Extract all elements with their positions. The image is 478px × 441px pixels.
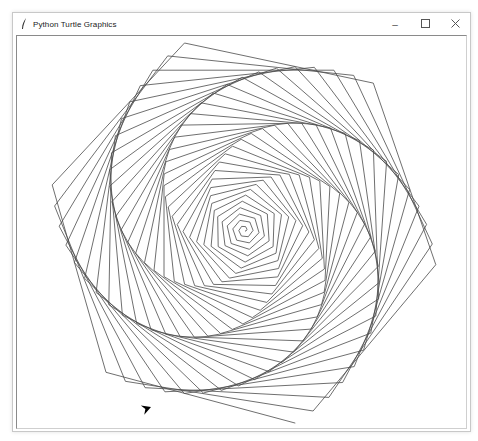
window-title: Python Turtle Graphics xyxy=(33,20,117,29)
hexagon-spiral-path xyxy=(52,43,436,423)
title-bar[interactable]: Python Turtle Graphics – xyxy=(13,13,470,35)
minimize-button[interactable]: – xyxy=(380,13,410,35)
close-icon xyxy=(451,19,460,30)
maximize-button[interactable] xyxy=(410,13,440,35)
turtle-canvas[interactable] xyxy=(16,35,467,429)
maximize-icon xyxy=(421,19,430,30)
spiral-drawing xyxy=(17,36,467,429)
window-controls: – xyxy=(380,13,470,35)
turtle-window: Python Turtle Graphics – xyxy=(12,12,471,432)
turtle-arrow-icon xyxy=(141,402,153,414)
feather-icon xyxy=(19,17,29,31)
close-button[interactable] xyxy=(440,13,470,35)
minimize-icon: – xyxy=(392,19,398,30)
